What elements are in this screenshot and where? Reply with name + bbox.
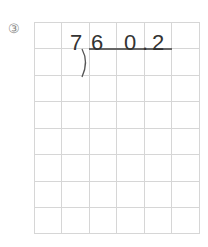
grid-paper bbox=[34, 22, 200, 234]
problem-number: ③ bbox=[8, 21, 20, 36]
grid-line bbox=[34, 22, 200, 23]
grid-line bbox=[34, 233, 200, 234]
dividend-digit: 0 bbox=[124, 30, 136, 56]
decimal-point: . bbox=[142, 30, 148, 56]
grid-line bbox=[34, 101, 200, 102]
dividend-digit: 2 bbox=[152, 30, 164, 56]
grid-line bbox=[34, 207, 200, 208]
grid-line bbox=[34, 128, 200, 129]
grid-line bbox=[34, 75, 200, 76]
grid-line bbox=[34, 154, 200, 155]
grid-line bbox=[34, 181, 200, 182]
division-bracket bbox=[80, 48, 90, 78]
dividend-digit: 6 bbox=[91, 30, 103, 56]
